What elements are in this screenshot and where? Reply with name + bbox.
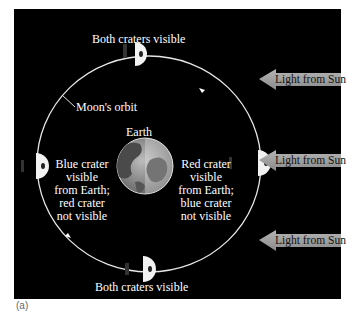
bottom-moon-label: Both craters visible — [95, 281, 188, 294]
figure-caption: (a) — [16, 300, 28, 311]
svg-text:Light from Sun: Light from Sun — [275, 154, 346, 167]
svg-text:Light from Sun: Light from Sun — [275, 73, 346, 86]
sun-arrow-1: Light from Sun — [259, 69, 346, 90]
orbit-label: Moon's orbit — [76, 101, 137, 114]
moon-left-icon — [21, 153, 49, 179]
sun-arrow-2: Light from Sun — [259, 150, 346, 171]
top-moon-label: Both craters visible — [92, 33, 185, 46]
earth-icon — [115, 138, 175, 194]
earth-label: Earth — [126, 126, 152, 139]
svg-text:Light from Sun: Light from Sun — [275, 234, 346, 247]
left-moon-description: Blue crater visible from Earth; red crat… — [52, 158, 112, 223]
orbit-diagram: Light from Sun Light from Sun Light from… — [0, 0, 352, 313]
right-moon-description: Red crater visible from Earth; blue crat… — [175, 158, 237, 223]
orbit-direction-arrow-icon — [199, 88, 205, 93]
moon-bottom-icon — [125, 256, 156, 282]
sun-arrow-3: Light from Sun — [259, 230, 346, 251]
